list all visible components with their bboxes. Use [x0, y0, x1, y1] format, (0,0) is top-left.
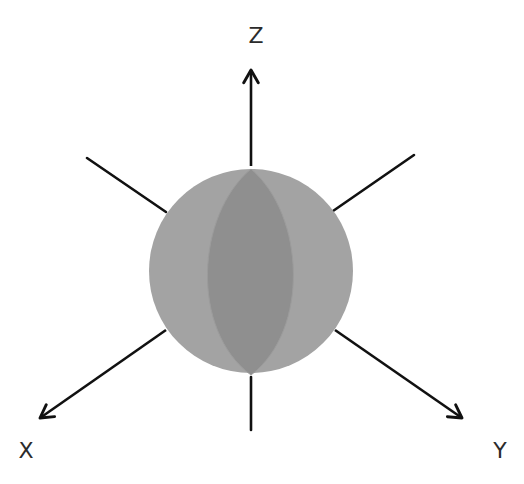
x-axis-arrow [40, 330, 166, 418]
axes-diagram: Z X Y [0, 0, 524, 484]
back-left-axis-line [87, 158, 166, 212]
back-right-axis-line [333, 155, 414, 211]
z-axis-label: Z [248, 23, 263, 48]
x-axis-label: X [18, 438, 33, 463]
y-axis-arrow [335, 330, 462, 418]
y-axis-label: Y [492, 438, 507, 463]
